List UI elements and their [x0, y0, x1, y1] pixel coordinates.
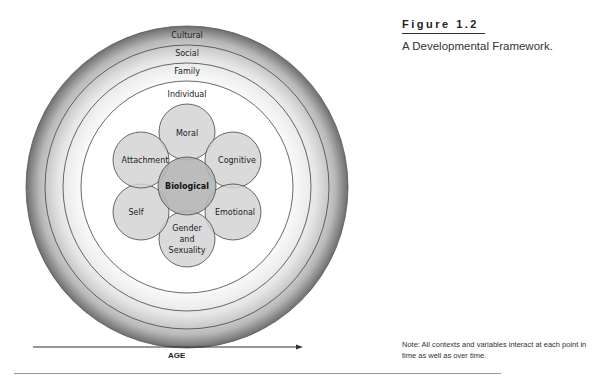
bottom-divider [14, 373, 501, 374]
age-axis-label: AGE [168, 351, 185, 360]
petal-label-cognitive: Cognitive [218, 156, 256, 165]
ring-label-family: Family [174, 67, 200, 76]
petal-label-sexuality: Sexuality [169, 246, 206, 255]
petal-label-self: Self [128, 208, 143, 217]
figure-number: Figure 1.2 [402, 18, 485, 34]
center-label-biological: Biological [165, 182, 209, 191]
petal-label-gender: Gender [172, 224, 202, 233]
petal-label-emotional: Emotional [215, 208, 255, 217]
petal-label-moral: Moral [176, 129, 198, 138]
developmental-framework-diagram: Cultural Social Family Individual Moral … [0, 0, 596, 391]
figure-note: Note: All contexts and variables interac… [402, 339, 592, 361]
figure-caption: A Developmental Framework. [402, 40, 553, 52]
petal-label-attachment: Attachment [122, 156, 169, 165]
ring-label-cultural: Cultural [171, 31, 203, 40]
petal-label-and: and [179, 235, 194, 244]
ring-label-individual: Individual [168, 90, 207, 99]
ring-label-social: Social [175, 49, 199, 58]
arrowhead-icon [296, 345, 303, 350]
